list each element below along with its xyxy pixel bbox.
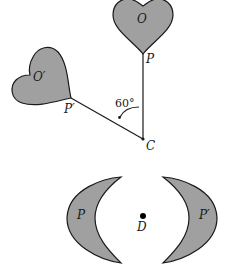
label-p-prime: P′ — [63, 102, 75, 116]
angle-arc-dot — [118, 116, 121, 119]
label-p: P — [145, 52, 155, 66]
label-o-prime: O′ — [33, 70, 46, 84]
center-c-point — [141, 137, 144, 140]
label-o: O — [137, 12, 147, 26]
label-crescent-p-prime: P′ — [198, 208, 210, 222]
rotation-diagram: O O′ P P′ C 60° P D P′ — [0, 0, 228, 267]
center-d-point — [140, 213, 146, 219]
angle-label: 60° — [115, 97, 135, 110]
label-crescent-p: P — [76, 208, 86, 222]
label-c: C — [146, 139, 155, 153]
crescent-p — [67, 177, 121, 263]
label-d: D — [136, 220, 147, 234]
heart-o — [113, 0, 173, 54]
